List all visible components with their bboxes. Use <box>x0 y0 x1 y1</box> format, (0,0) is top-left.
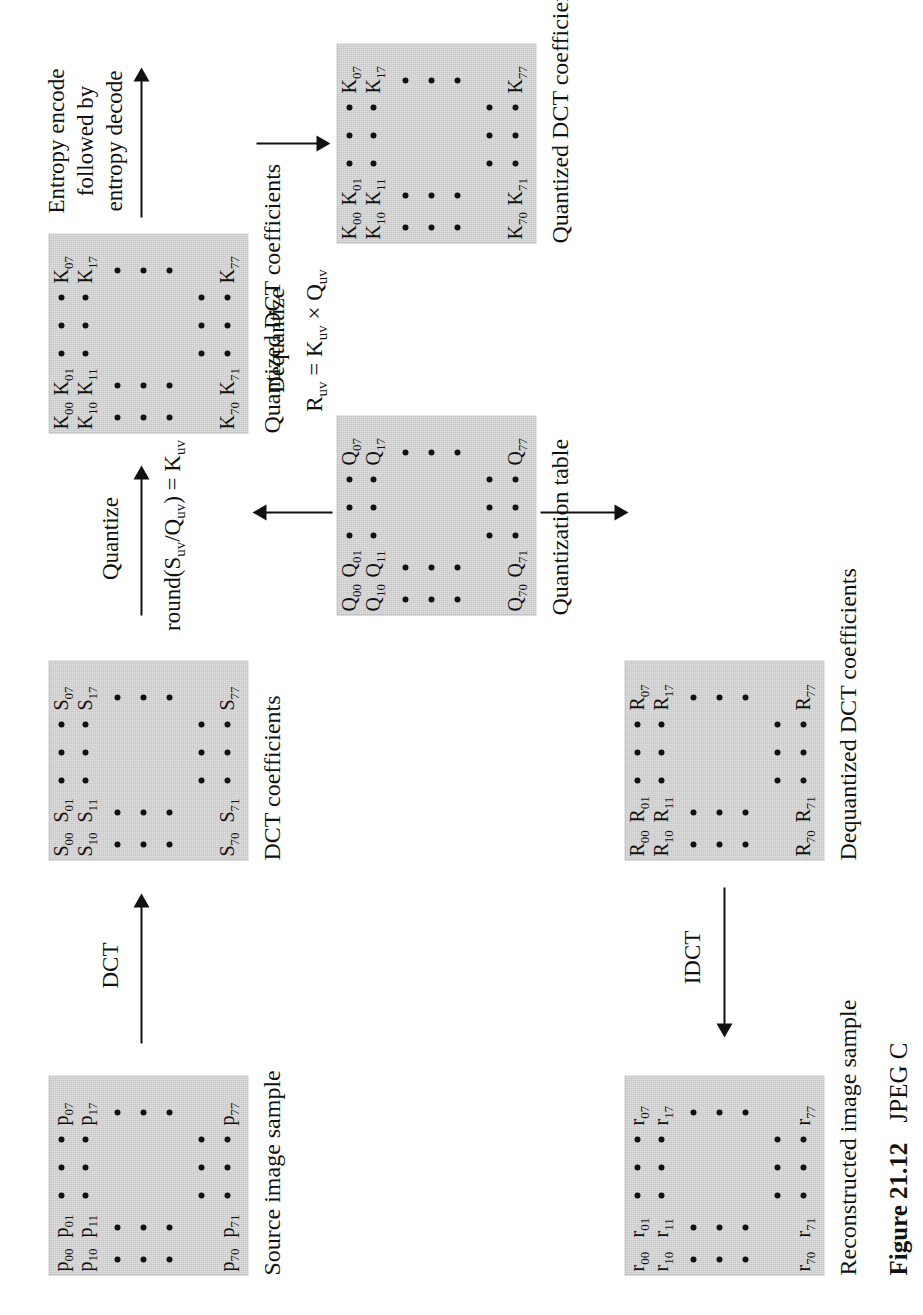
block-quantized-dct-coefficients: K00 K01 K10 K11 K07 K17 K70 K71 K77 <box>48 233 248 433</box>
block-label-p71: p71 <box>216 1214 240 1237</box>
block-label-p77: p77 <box>216 1102 240 1125</box>
block-dequantized-dct-coefficients: R00 R01 R10 R11 R07 R17 R70 R71 R77 <box>624 660 824 860</box>
block-label-r00: r00 <box>626 1251 650 1271</box>
block-label-S77: S77 <box>216 686 240 710</box>
block-label-K77: K77 <box>216 256 240 283</box>
arrow-idct <box>716 887 732 1037</box>
block-label-K00: K00 <box>50 402 74 429</box>
block-label-S11: S11 <box>74 798 98 822</box>
block-label-r71: r71 <box>792 1217 816 1237</box>
arrow-label-quantize-formula: round(Suv/Quv) = Kuv <box>158 410 189 660</box>
block-label-R11: R11 <box>650 796 674 822</box>
arrow-dequantize <box>256 135 330 151</box>
block-quantization-table: Q00 Q01 Q10 Q11 Q07 Q17 Q70 Q71 Q77 <box>336 415 536 615</box>
block-source-image-sample: p00 p01 p10 p11 p07 p17 p70 p71 p77 <box>48 1075 248 1275</box>
block-dct-coefficients: S00 S01 S10 S11 S07 S17 S70 S71 S77 <box>48 660 248 860</box>
block-label-K71-dec: K71 <box>504 178 528 205</box>
block-label-S10: S10 <box>74 832 98 856</box>
block-label-R07: R07 <box>626 684 650 710</box>
block-label-K70: K70 <box>216 402 240 429</box>
block-label-r10: r10 <box>650 1251 674 1271</box>
caption-source-image-sample: Source image sample <box>258 1070 286 1275</box>
block-label-Q01: Q01 <box>338 550 362 577</box>
block-label-S17: S17 <box>74 686 98 710</box>
block-label-S07: S07 <box>50 686 74 710</box>
arrow-qtable-to-quantize <box>252 504 332 520</box>
block-label-K10: K10 <box>74 402 98 429</box>
block-label-R71: R71 <box>792 796 816 822</box>
arrow-label-dequantize: Dequantize <box>262 270 291 410</box>
block-label-K70-dec: K70 <box>504 212 528 239</box>
block-label-r01: r01 <box>626 1217 650 1237</box>
arrow-label-idct: IDCT <box>678 907 707 1007</box>
arrow-qtable-to-dequantize <box>540 504 628 520</box>
block-label-r70: r70 <box>792 1251 816 1271</box>
block-label-K17: K17 <box>74 256 98 283</box>
block-label-R17: R17 <box>650 684 674 710</box>
block-label-p07: p07 <box>50 1102 74 1125</box>
block-label-r11: r11 <box>650 1218 674 1237</box>
caption-dct-coefficients: DCT coefficients <box>258 695 286 860</box>
block-label-S01: S01 <box>50 798 74 822</box>
block-label-R70: R70 <box>792 830 816 856</box>
block-label-K07: K07 <box>50 256 74 283</box>
arrow-dct <box>133 893 149 1043</box>
caption-quantization-table: Quantization table <box>546 438 574 615</box>
block-label-Q10: Q10 <box>362 584 386 611</box>
block-label-S70: S70 <box>216 832 240 856</box>
block-label-Q71: Q71 <box>504 550 528 577</box>
block-label-K11-dec: K11 <box>362 178 386 205</box>
block-label-p01: p01 <box>50 1214 74 1237</box>
block-label-Q07: Q07 <box>338 438 362 465</box>
figure-caption-text: JPEG C <box>884 1042 911 1122</box>
block-label-K77-dec: K77 <box>504 66 528 93</box>
figure-caption-label: Figure 21.12 <box>884 1142 911 1275</box>
block-label-R01: R01 <box>626 796 650 822</box>
block-label-R77: R77 <box>792 684 816 710</box>
block-label-p11: p11 <box>74 1214 98 1237</box>
caption-quantized-dct-coefficients-decoder: Quantized DCT coefficients <box>546 0 574 243</box>
figure-caption: Figure 21.12 JPEG C <box>884 1042 912 1275</box>
block-label-K11: K11 <box>74 368 98 395</box>
block-label-K00-dec: K00 <box>338 212 362 239</box>
block-label-p00: p00 <box>50 1248 74 1271</box>
block-label-p10: p10 <box>74 1248 98 1271</box>
block-label-Q70: Q70 <box>504 584 528 611</box>
arrow-label-quantize: Quantize <box>96 473 125 603</box>
caption-dequantized-dct-coefficients: Dequantized DCT coefficients <box>834 568 862 860</box>
block-label-r17: r17 <box>650 1105 674 1125</box>
block-quantized-dct-coefficients-decoder: K00 K01 K10 K11 K07 K17 K70 K71 K77 <box>336 43 536 243</box>
block-label-p70: p70 <box>216 1248 240 1271</box>
block-label-K01-dec: K01 <box>338 178 362 205</box>
block-label-p17: p17 <box>74 1102 98 1125</box>
block-label-K17-dec: K17 <box>362 66 386 93</box>
entropy-line-1: Entropy encode <box>42 48 71 233</box>
arrow-label-dct: DCT <box>96 915 125 1015</box>
caption-reconstructed-image-sample: Reconstructed image sample <box>834 999 862 1275</box>
arrow-entropy-codec <box>133 67 149 217</box>
entropy-line-2: followed by <box>71 48 100 233</box>
figure-stage: p00 p01 p10 p11 p07 p17 p70 p71 p77 Sour… <box>0 0 923 1315</box>
block-label-Q00: Q00 <box>338 584 362 611</box>
block-label-S71: S71 <box>216 798 240 822</box>
entropy-line-3: entropy decode <box>100 48 129 233</box>
block-label-r07: r07 <box>626 1105 650 1125</box>
block-reconstructed-image-sample: r00 r01 r10 r11 r07 r17 r70 r71 r77 <box>624 1075 824 1275</box>
block-label-S00: S00 <box>50 832 74 856</box>
block-label-K01: K01 <box>50 368 74 395</box>
block-label-K10-dec: K10 <box>362 212 386 239</box>
arrow-label-entropy-codec: Entropy encode followed by entropy decod… <box>42 48 128 233</box>
block-label-Q17: Q17 <box>362 438 386 465</box>
arrow-quantize <box>133 465 149 615</box>
block-label-K07-dec: K07 <box>338 66 362 93</box>
block-label-Q11: Q11 <box>362 550 386 577</box>
block-label-R10: R10 <box>650 830 674 856</box>
arrow-label-dequantize-formula: Ruv = Kuv × Quv <box>300 245 331 435</box>
block-label-K71: K71 <box>216 368 240 395</box>
block-label-r77: r77 <box>792 1105 816 1125</box>
block-label-R00: R00 <box>626 830 650 856</box>
block-label-Q77: Q77 <box>504 438 528 465</box>
